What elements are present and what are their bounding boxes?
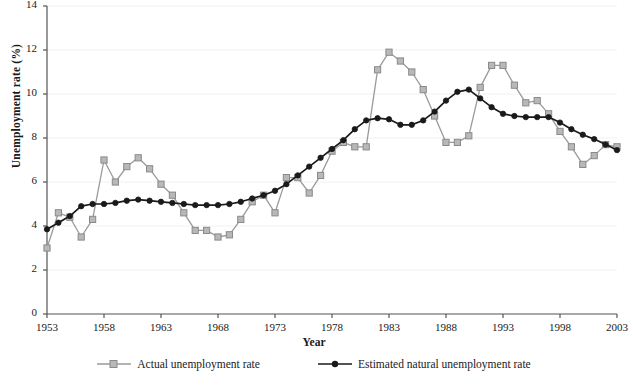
data-point-marker [101,157,107,163]
data-point-marker [181,201,186,206]
data-point-marker [56,220,61,225]
y-tick-label: 0 [7,306,37,318]
x-tick-label: 1998 [540,321,580,333]
data-point-marker [512,113,517,118]
data-point-marker [614,147,619,152]
data-point-marker [238,199,243,204]
x-tick-label: 1968 [198,321,238,333]
data-point-marker [591,153,597,159]
data-point-marker [215,234,221,240]
data-point-marker [489,105,494,110]
data-point-marker [135,155,141,161]
legend-label-natural: Estimated natural unemployment rate [358,358,531,370]
data-point-marker [124,198,129,203]
y-tick-label: 2 [7,262,37,274]
data-point-marker [283,175,289,181]
data-point-marker [523,100,529,106]
data-point-marker [523,114,528,119]
data-point-marker [421,118,426,123]
data-point-marker [158,181,164,187]
data-point-marker [238,216,244,222]
x-tick-label: 2003 [597,321,633,333]
data-point-marker [90,201,95,206]
data-point-marker [295,173,300,178]
data-point-marker [546,114,551,119]
data-point-marker [124,164,130,170]
data-point-marker [226,232,232,238]
data-point-marker [318,172,324,178]
legend-swatch-square-icon [97,358,131,370]
data-point-marker [318,155,323,160]
data-point-marker [364,118,369,123]
data-point-marker [44,227,49,232]
data-point-marker [79,204,84,209]
data-point-marker [215,202,220,207]
data-point-marker [44,245,50,251]
series-natural [44,87,619,232]
data-point-marker [112,179,118,185]
data-point-marker [136,197,141,202]
data-point-marker [204,227,210,233]
y-tick-label: 4 [7,218,37,230]
chart-legend: Actual unemployment rate Estimated natur… [0,358,628,370]
data-point-marker [443,98,448,103]
data-point-marker [227,201,232,206]
data-point-marker [204,202,209,207]
data-point-marker [398,122,403,127]
data-point-marker [420,87,426,93]
data-point-marker [535,114,540,119]
data-point-marker [158,199,163,204]
data-point-marker [386,49,392,55]
data-point-marker [409,69,415,75]
data-point-marker [306,190,312,196]
x-tick-label: 1963 [141,321,181,333]
data-point-marker [443,139,449,145]
data-point-marker [261,193,266,198]
data-point-marker [557,120,562,125]
data-point-marker [67,213,72,218]
legend-item-actual: Actual unemployment rate [97,358,260,370]
data-point-marker [500,111,505,116]
x-tick-label: 1973 [255,321,295,333]
y-tick-label: 14 [7,0,37,10]
data-point-marker [569,127,574,132]
data-point-marker [455,89,460,94]
legend-item-natural: Estimated natural unemployment rate [318,358,531,370]
x-tick-label: 1958 [84,321,124,333]
y-tick-label: 10 [7,86,37,98]
data-point-marker [193,202,198,207]
y-tick-label: 8 [7,130,37,142]
data-point-marker [250,196,255,201]
data-point-marker [454,139,460,145]
series-line [47,90,617,230]
data-point-marker [386,117,391,122]
data-point-marker [375,116,380,121]
data-point-marker [397,58,403,64]
x-tick-label: 1978 [312,321,352,333]
data-point-marker [113,200,118,205]
data-point-marker [557,128,563,134]
data-point-marker [170,200,175,205]
legend-label-actual: Actual unemployment rate [137,358,260,370]
x-tick-label: 1953 [27,321,67,333]
data-point-marker [466,133,472,139]
data-point-marker [592,136,597,141]
data-point-marker [329,146,334,151]
data-point-marker [55,210,61,216]
data-point-marker [352,144,358,150]
data-point-marker [409,122,414,127]
data-point-marker [341,138,346,143]
x-axis-label: Year [0,336,628,348]
data-point-marker [603,142,608,147]
data-point-marker [181,210,187,216]
data-point-marker [101,201,106,206]
data-point-marker [477,84,483,90]
x-tick-label: 1983 [369,321,409,333]
y-tick-label: 12 [7,42,37,54]
data-point-marker [466,87,471,92]
data-point-marker [511,82,517,88]
data-point-marker [352,127,357,132]
data-point-marker [580,161,586,167]
legend-swatch-circle-icon [318,358,352,370]
data-point-marker [432,109,437,114]
